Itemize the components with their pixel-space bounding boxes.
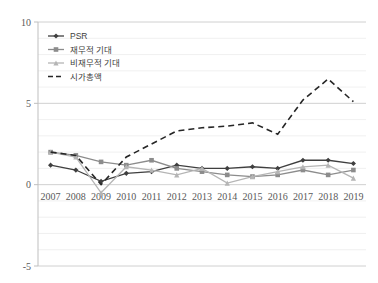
- data-point-marker: [300, 158, 305, 163]
- x-axis-tick-label: 2012: [167, 191, 187, 202]
- legend-label: 시가총액: [70, 72, 102, 82]
- x-axis-tick-label: 2019: [343, 191, 363, 202]
- data-point-marker: [351, 161, 356, 166]
- y-axis-tick-label: -5: [23, 261, 31, 272]
- legend-marker: [54, 47, 59, 52]
- x-axis-tick-label: 2014: [217, 191, 237, 202]
- x-axis-tick-label: 2013: [192, 191, 212, 202]
- y-axis-ticks: -50510: [21, 17, 38, 272]
- data-point-marker: [225, 173, 230, 178]
- line-chart: -50510 200720082009201020112012201320142…: [0, 0, 378, 283]
- x-axis-tick-label: 2008: [66, 191, 86, 202]
- x-axis-ticks: 2007200820092010201120122013201420152016…: [41, 191, 364, 202]
- x-axis-tick-label: 2017: [293, 191, 313, 202]
- data-point-marker: [48, 163, 53, 168]
- x-axis-tick-label: 2018: [318, 191, 338, 202]
- legend-label: PSR: [70, 31, 87, 41]
- data-point-marker: [351, 168, 356, 173]
- data-point-marker: [99, 160, 104, 165]
- x-axis-tick-label: 2007: [41, 191, 61, 202]
- data-point-marker: [326, 173, 331, 178]
- data-series: [48, 79, 356, 195]
- y-axis-tick-label: 10: [21, 17, 31, 28]
- x-axis-tick-label: 2016: [268, 191, 288, 202]
- data-point-marker: [174, 166, 179, 171]
- data-point-marker: [351, 176, 356, 181]
- data-point-marker: [124, 171, 129, 176]
- data-point-marker: [225, 166, 230, 171]
- x-axis-tick-label: 2015: [242, 191, 262, 202]
- data-point-marker: [326, 158, 331, 163]
- legend-marker: [53, 33, 58, 38]
- legend-label: 비재무적 기대: [70, 58, 120, 68]
- data-point-marker: [149, 158, 154, 163]
- chart-container: -50510 200720082009201020112012201320142…: [0, 0, 378, 283]
- x-axis-tick-label: 2010: [116, 191, 136, 202]
- y-axis-tick-label: 5: [26, 98, 31, 109]
- legend-label: 재무적 기대: [70, 45, 112, 55]
- y-axis-tick-label: 0: [26, 179, 31, 190]
- x-axis-tick-label: 2011: [142, 191, 162, 202]
